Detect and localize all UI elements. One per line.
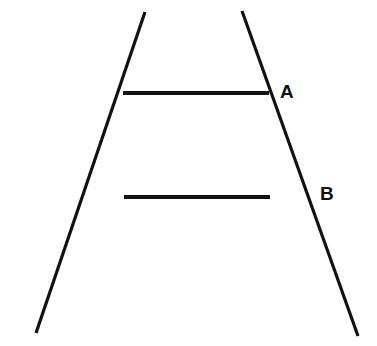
figure-background: [0, 0, 377, 346]
figure-canvas: [0, 0, 377, 346]
ponzo-illusion-figure: A B: [0, 0, 377, 346]
label-b: B: [320, 184, 334, 203]
label-a: A: [280, 82, 294, 101]
